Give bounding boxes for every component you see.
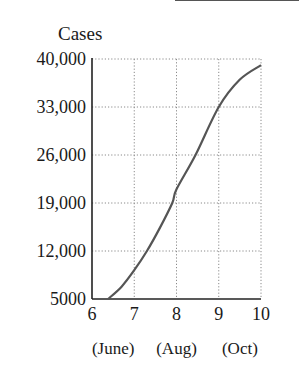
x-tick-label: 6 [88,304,97,324]
cases-curve [108,65,261,299]
x-tick-label: 10 [252,304,270,324]
y-tick-label: 5000 [50,289,86,309]
x-tick-label: 9 [214,304,223,324]
x-tick-label: 7 [130,304,139,324]
y-tick-label: 19,000 [37,193,87,213]
grid-lines [92,59,261,299]
y-tick-label: 40,000 [37,49,87,69]
y-axis-title: Cases [58,23,102,44]
x-tick-labels: 678910 [88,304,271,324]
y-tick-label: 12,000 [37,241,87,261]
month-label: (Oct) [222,339,258,358]
month-labels: (June)(Aug)(Oct) [92,339,258,358]
y-tick-label: 33,000 [37,97,87,117]
month-label: (Aug) [156,339,197,358]
line-chart: Cases 500012,00019,00026,00033,00040,000… [0,0,299,377]
x-tick-label: 8 [172,304,181,324]
y-tick-label: 26,000 [37,145,87,165]
month-label: (June) [92,339,134,358]
y-tick-labels: 500012,00019,00026,00033,00040,000 [37,49,87,309]
